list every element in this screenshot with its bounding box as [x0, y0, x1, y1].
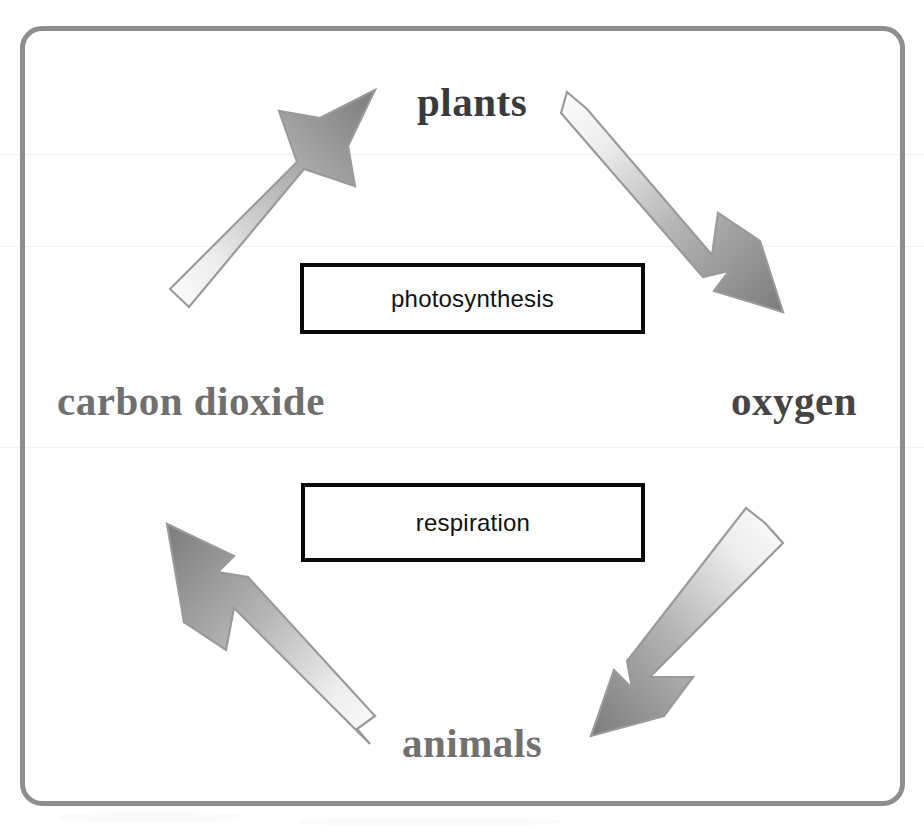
diagram-canvas: plants oxygen animals carbon dioxide pho…	[0, 0, 924, 838]
node-label-plants: plants	[417, 78, 527, 126]
scan-artifact-smudge	[300, 818, 560, 826]
node-label-oxygen: oxygen	[731, 377, 857, 425]
node-label-carbon-dioxide: carbon dioxide	[57, 377, 325, 425]
process-box-respiration: respiration	[301, 483, 645, 562]
scan-artifact-smudge	[60, 812, 240, 822]
process-label-respiration: respiration	[416, 509, 530, 537]
process-label-photosynthesis: photosynthesis	[391, 285, 554, 313]
process-box-photosynthesis: photosynthesis	[300, 263, 645, 334]
node-label-animals: animals	[402, 719, 542, 767]
